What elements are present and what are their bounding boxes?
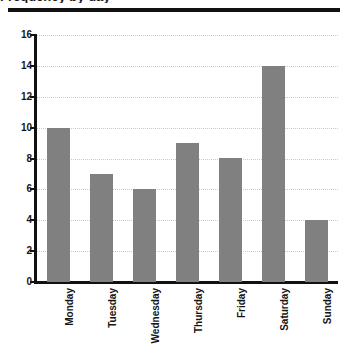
bar-chart-figure: Frequency by day 0246810121416 MondayTue… (0, 0, 346, 354)
x-tick-label-sunday: Sunday (322, 288, 333, 324)
y-tick-label: 0 (0, 277, 32, 287)
bar-saturday[interactable] (262, 66, 285, 282)
gridline (37, 35, 338, 36)
x-tick-label-wednesday: Wednesday (150, 288, 161, 343)
y-tick-label: 12 (0, 92, 32, 102)
bar-friday[interactable] (219, 158, 242, 282)
y-tick-label: 2 (0, 246, 32, 256)
bar-monday[interactable] (47, 128, 70, 282)
x-tick-label-tuesday: Tuesday (107, 288, 118, 328)
gridline (37, 128, 338, 129)
bar-tuesday[interactable] (90, 174, 113, 282)
x-tick-label-thursday: Thursday (193, 288, 204, 333)
header-divider (8, 8, 340, 12)
y-tick-label: 8 (0, 154, 32, 164)
chart-title-remnant: Frequency by day (0, 0, 340, 3)
gridline (37, 66, 338, 67)
y-tick-label: 14 (0, 61, 32, 71)
x-tick-label-friday: Friday (236, 288, 247, 318)
bar-wednesday[interactable] (133, 189, 156, 282)
y-tick-label: 4 (0, 215, 32, 225)
y-tick-label: 6 (0, 184, 32, 194)
gridline (37, 97, 338, 98)
bar-sunday[interactable] (305, 220, 328, 282)
x-tick-label-saturday: Saturday (279, 288, 290, 331)
y-tick-label: 16 (0, 30, 32, 40)
y-tick-label: 10 (0, 123, 32, 133)
bar-thursday[interactable] (176, 143, 199, 282)
x-tick-label-monday: Monday (64, 288, 75, 326)
